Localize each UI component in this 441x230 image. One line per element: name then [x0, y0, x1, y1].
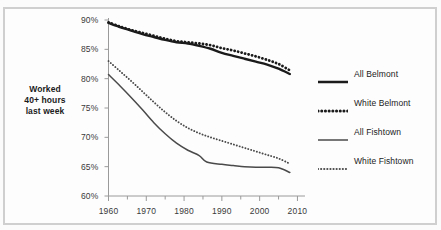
y-tick-label-1: 85%	[73, 44, 99, 54]
legend-label: White Belmont	[354, 98, 411, 108]
y-tick-label-0: 90%	[73, 15, 99, 25]
series-line-all-fishtown	[109, 75, 290, 173]
legend-item-white-fishtown[interactable]: White Fishtown	[318, 155, 436, 184]
x-tick-label-0: 1960	[94, 206, 124, 216]
chart-legend: All BelmontWhite BelmontAll FishtownWhit…	[318, 68, 436, 184]
legend-label: All Belmont	[354, 69, 398, 79]
x-tick-label-4: 2000	[245, 206, 275, 216]
y-tick-label-5: 65%	[73, 162, 99, 172]
legend-label: All Fishtown	[354, 127, 401, 137]
y-tick-label-3: 75%	[73, 103, 99, 113]
x-tick-label-2: 1980	[169, 206, 199, 216]
legend-label: White Fishtown	[354, 156, 414, 166]
legend-item-all-fishtown[interactable]: All Fishtown	[318, 126, 436, 155]
legend-item-all-belmont[interactable]: All Belmont	[318, 68, 436, 97]
legend-item-white-belmont[interactable]: White Belmont	[318, 97, 436, 126]
legend-swatch-dotted-thick-icon	[318, 101, 348, 109]
y-tick-label-2: 80%	[73, 74, 99, 84]
x-tick-label-1: 1970	[131, 206, 161, 216]
chart-figure: Worked 40+ hours last week 90%85%80%75%7…	[0, 0, 441, 230]
legend-swatch-solid-thick-icon	[318, 72, 348, 80]
x-tick-label-3: 1990	[207, 206, 237, 216]
y-tick-label-4: 70%	[73, 132, 99, 142]
series-line-white-fishtown	[109, 61, 290, 164]
series-group	[109, 22, 290, 172]
axes-group	[105, 18, 306, 201]
y-tick-label-6: 60%	[73, 191, 99, 201]
x-tick-label-5: 2010	[282, 206, 312, 216]
legend-swatch-dotted-thin-icon	[318, 159, 348, 167]
legend-swatch-solid-thin-icon	[318, 130, 348, 138]
